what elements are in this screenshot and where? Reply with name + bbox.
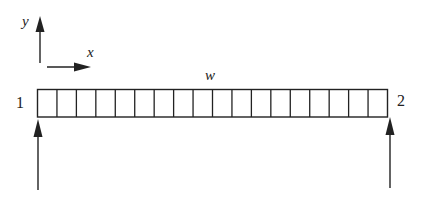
- y-axis-label: y: [20, 13, 29, 29]
- beam-diagram: y x w 1 2: [0, 0, 429, 201]
- node-label-2: 2: [397, 92, 405, 109]
- x-axis-label: x: [86, 44, 94, 60]
- reaction-arrow-1-icon: [34, 119, 43, 190]
- load-cells: [57, 90, 368, 118]
- y-axis-arrow-icon: [36, 16, 45, 63]
- x-axis-arrow-icon: [47, 63, 91, 72]
- coordinate-axes: y x: [20, 13, 94, 72]
- distributed-load-label: w: [205, 67, 215, 83]
- beam: [38, 90, 388, 118]
- reaction-arrow-2-icon: [386, 117, 395, 188]
- node-label-1: 1: [16, 94, 24, 111]
